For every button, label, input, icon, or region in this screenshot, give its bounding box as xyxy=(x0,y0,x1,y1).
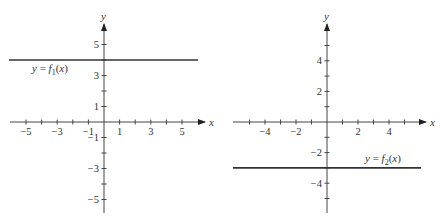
x-tick-label: −2 xyxy=(290,126,301,137)
function-label: y = f1(x) xyxy=(31,62,68,77)
y-axis-label: y xyxy=(100,10,106,22)
y-tick-label: 5 xyxy=(94,39,99,50)
y-tick-label: −5 xyxy=(88,194,99,205)
y-tick-label: 1 xyxy=(94,101,99,112)
x-axis-label: x xyxy=(208,116,214,128)
x-axis-label: x xyxy=(429,116,435,128)
y-tick-label: 4 xyxy=(317,55,323,66)
x-tick-label: 4 xyxy=(386,126,392,137)
x-tick-label: 5 xyxy=(179,126,184,137)
x-tick-label: −3 xyxy=(52,126,63,137)
y-tick-label: 3 xyxy=(94,70,99,81)
x-tick-label: 1 xyxy=(117,126,122,137)
y-axis-label: y xyxy=(323,10,329,22)
charts-canvas: xy−5−3−1135531−1−3−5y = f1(x) xy−4−22442… xyxy=(0,0,443,220)
graph-f2: xy−4−22442−2−4y = f2(x) xyxy=(233,10,435,213)
y-tick-label: −3 xyxy=(88,163,99,174)
y-tick-label: −4 xyxy=(311,178,323,189)
y-tick-label: 2 xyxy=(317,86,322,97)
graph-f1: xy−5−3−1135531−1−3−5y = f1(x) xyxy=(9,10,214,213)
y-tick-label: −2 xyxy=(311,147,322,158)
x-tick-label: 3 xyxy=(148,126,153,137)
x-tick-label: 2 xyxy=(355,126,360,137)
y-tick-label: −1 xyxy=(88,132,99,143)
x-tick-label: −5 xyxy=(20,126,31,137)
x-tick-label: −4 xyxy=(259,126,271,137)
function-label: y = f2(x) xyxy=(364,152,401,167)
